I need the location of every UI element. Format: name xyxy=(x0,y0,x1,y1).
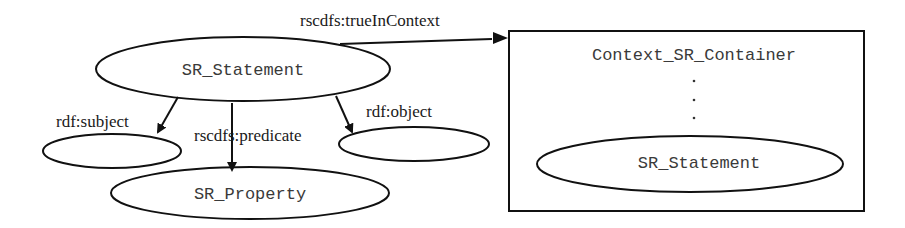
node-subject xyxy=(43,134,181,168)
edge-true-in-context-line xyxy=(340,39,492,44)
ellipsis-dot xyxy=(693,99,696,102)
node-sr-statement: SR_Statement xyxy=(96,37,390,101)
node-sr-statement-label: SR_Statement xyxy=(182,61,304,80)
node-inner-sr-statement: SR_Statement xyxy=(537,136,843,192)
arrowhead-icon xyxy=(493,32,508,44)
node-inner-sr-statement-label: SR_Statement xyxy=(638,154,760,173)
ellipsis-dot xyxy=(693,80,696,83)
ellipsis-dot xyxy=(693,117,696,120)
edge-subject-label: rdf:subject xyxy=(56,112,129,131)
node-object xyxy=(339,127,489,161)
edge-subject: rdf:subject xyxy=(56,97,178,132)
rdf-reification-diagram: SR_Statement rscdfs:trueInContext rdf:su… xyxy=(0,0,905,228)
node-sr-property-label: SR_Property xyxy=(194,185,306,204)
node-sr-property: SR_Property xyxy=(111,167,389,219)
edge-predicate-label: rscdfs:predicate xyxy=(194,126,302,145)
edge-object-label: rdf:object xyxy=(366,102,432,121)
edge-predicate: rscdfs:predicate xyxy=(194,103,302,170)
edge-true-in-context-label: rscdfs:trueInContext xyxy=(300,11,440,30)
context-container-label: Context_SR_Container xyxy=(592,46,796,65)
context-container: Context_SR_Container SR_Statement xyxy=(509,31,864,211)
edge-true-in-context: rscdfs:trueInContext xyxy=(300,11,508,44)
